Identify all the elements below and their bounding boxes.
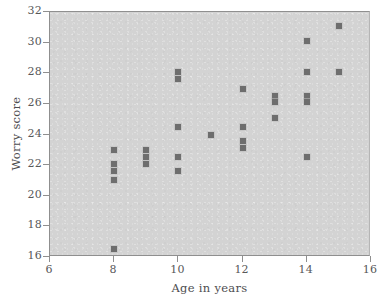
y-tick-mark (43, 164, 49, 165)
data-point (304, 99, 310, 105)
data-point (304, 154, 310, 160)
data-point (336, 23, 342, 29)
y-tick-label: 16 (28, 250, 42, 261)
data-point (240, 138, 246, 144)
y-tick-mark (43, 103, 49, 104)
data-point (143, 154, 149, 160)
data-point (143, 147, 149, 153)
data-point (240, 145, 246, 151)
y-tick-label: 22 (28, 158, 42, 169)
data-point (175, 69, 181, 75)
plot-data-area (49, 11, 370, 256)
y-tick-label: 26 (28, 97, 42, 108)
data-point (111, 168, 117, 174)
x-tick-mark (49, 256, 50, 262)
x-tick-mark (113, 256, 114, 262)
y-axis-title: Worry score (8, 11, 24, 256)
data-point (208, 132, 214, 138)
data-point (272, 93, 278, 99)
data-point (111, 147, 117, 153)
data-point (111, 161, 117, 167)
y-tick-label: 32 (28, 5, 42, 16)
data-point (175, 124, 181, 130)
x-tick-mark (306, 256, 307, 262)
data-point (304, 38, 310, 44)
y-tick-label: 18 (28, 219, 42, 230)
x-tick-mark (242, 256, 243, 262)
x-tick-label: 12 (230, 264, 254, 275)
y-tick-mark (43, 42, 49, 43)
data-point (111, 246, 117, 252)
x-tick-mark (370, 256, 371, 262)
y-tick-mark (43, 72, 49, 73)
x-tick-label: 10 (165, 264, 189, 275)
y-tick-label: 24 (28, 128, 42, 139)
data-point (272, 99, 278, 105)
data-point (240, 86, 246, 92)
y-tick-label: 30 (28, 36, 42, 47)
y-tick-label: 20 (28, 189, 42, 200)
data-point (175, 168, 181, 174)
x-tick-label: 6 (37, 264, 61, 275)
data-point (336, 69, 342, 75)
x-axis-title: Age in years (49, 281, 370, 295)
y-tick-mark (43, 195, 49, 196)
data-point (304, 69, 310, 75)
y-tick-mark (43, 11, 49, 12)
data-point (175, 76, 181, 82)
data-point (143, 161, 149, 167)
data-point (111, 177, 117, 183)
x-tick-label: 14 (294, 264, 318, 275)
data-point (304, 93, 310, 99)
x-tick-mark (177, 256, 178, 262)
y-tick-label: 28 (28, 66, 42, 77)
data-point (272, 115, 278, 121)
y-tick-mark (43, 134, 49, 135)
x-tick-label: 8 (101, 264, 125, 275)
data-point (175, 154, 181, 160)
data-point (240, 124, 246, 130)
y-tick-mark (43, 225, 49, 226)
x-tick-label: 16 (358, 264, 382, 275)
scatter-plot-figure: 161820222426283032 6810121416 Worry scor… (0, 0, 385, 306)
